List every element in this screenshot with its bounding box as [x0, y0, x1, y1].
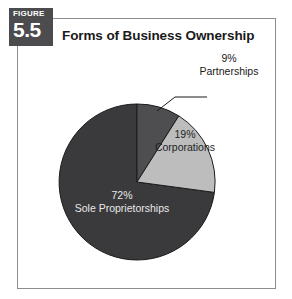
figure-badge-number: 5.5: [13, 18, 41, 41]
slice-label-corporations-percent: 19%: [139, 128, 231, 141]
figure-container: FIGURE 5.5 Forms of Business Ownership 9…: [0, 0, 292, 299]
callout-partnerships: 9% Partnerships: [190, 52, 268, 78]
slice-label-sole-proprietorships-percent: 72%: [48, 189, 196, 202]
chart-title: Forms of Business Ownership: [62, 28, 262, 43]
slice-label-sole-proprietorships-label: Sole Proprietorships: [48, 202, 196, 215]
slice-label-corporations: 19% Corporations: [139, 128, 231, 154]
callout-partnerships-percent: 9%: [190, 52, 268, 65]
slice-label-corporations-label: Corporations: [139, 141, 231, 154]
figure-badge: FIGURE 5.5: [9, 8, 53, 46]
callout-partnerships-label: Partnerships: [190, 65, 268, 78]
slice-label-sole-proprietorships: 72% Sole Proprietorships: [48, 189, 196, 215]
